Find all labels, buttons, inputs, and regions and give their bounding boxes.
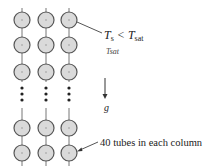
ellipsis-dots — [20, 86, 70, 101]
tube-count-leader-arrow — [77, 142, 98, 152]
saturation-temperature-label: Tsat — [106, 48, 119, 56]
tube-count-label: 40 tubes in each column — [100, 138, 202, 149]
surface-temp-leader-line — [77, 22, 102, 33]
gravity-label: g — [104, 103, 109, 113]
gravity-arrow-icon — [103, 78, 108, 99]
surface-temperature-label: Ts < Tsat — [104, 29, 144, 43]
